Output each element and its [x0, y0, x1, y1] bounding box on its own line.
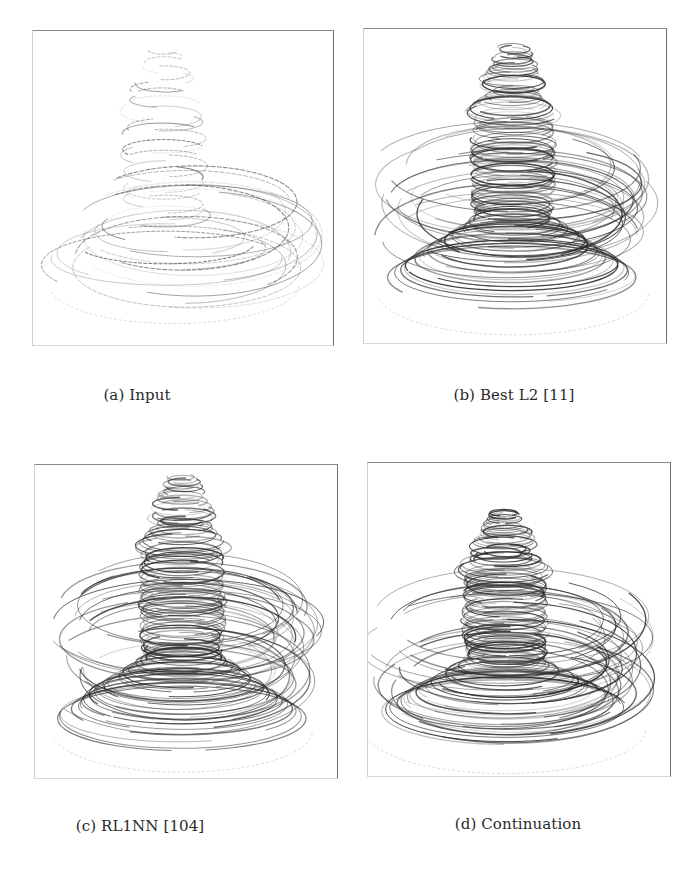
subfigure-a-input-image	[32, 30, 334, 346]
vortex-strokes-image	[33, 31, 333, 345]
subfigure-c-rl1nn-image	[34, 464, 338, 779]
vortex-strokes-image	[364, 29, 666, 343]
subfigure-caption-c: (c) RL1NN [104]	[76, 817, 205, 835]
subfigure-b-best-l2-image	[363, 28, 667, 344]
subfigure-caption-b: (b) Best L2 [11]	[453, 386, 574, 404]
vortex-strokes-image	[368, 463, 670, 776]
subfigure-caption-d: (d) Continuation	[455, 815, 581, 833]
subfigure-caption-a: (a) Input	[103, 386, 170, 404]
subfigure-d-continuation-image	[367, 462, 671, 777]
vortex-strokes-image	[35, 465, 337, 778]
